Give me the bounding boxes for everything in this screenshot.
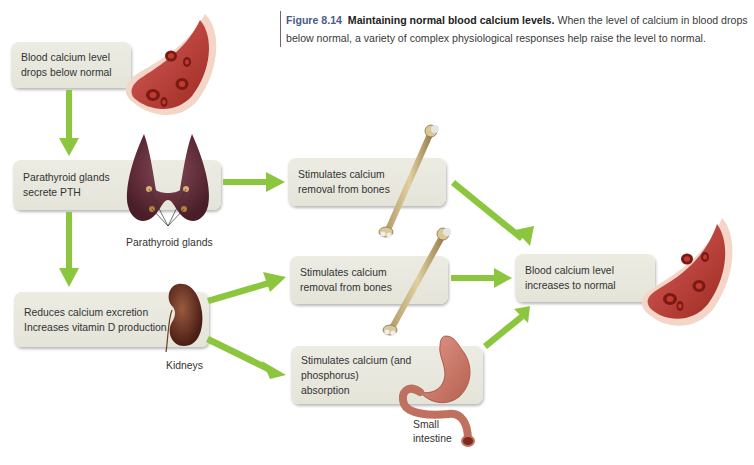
bone-icon [379, 125, 439, 238]
arrow-absorption-to-end [483, 306, 530, 349]
label-parathyroid-glands: Parathyroid glands [126, 236, 213, 250]
arrow-bone2-to-end [451, 268, 512, 288]
arrow-bone1-to-end [451, 180, 534, 246]
kidney-icon [166, 284, 202, 352]
label-small-intestine-line2: intestine [413, 432, 452, 446]
blood-vessel-icon [126, 14, 216, 115]
arrows [59, 90, 534, 379]
thyroid-parathyroid-icon [127, 134, 209, 226]
arrow-parathyroid-to-kidney [59, 212, 79, 287]
label-small-intestine-line1: Small [413, 418, 439, 432]
arrow-start-to-parathyroid [59, 90, 79, 156]
blood-vessel-icon [642, 218, 733, 326]
label-kidneys: Kidneys [166, 359, 203, 373]
bone-icon [383, 228, 451, 336]
diagram-graphics [0, 0, 754, 465]
arrow-kidney-to-bone2 [207, 272, 286, 304]
arrow-parathyroid-to-bone1 [223, 172, 285, 192]
arrow-kidney-to-absorption [206, 336, 286, 379]
